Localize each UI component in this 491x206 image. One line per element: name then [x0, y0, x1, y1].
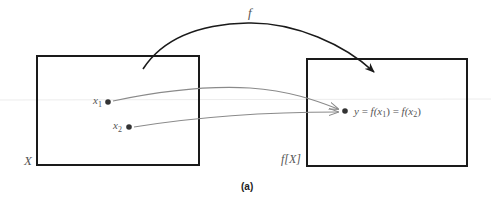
point-x1	[105, 99, 111, 105]
point-y	[342, 108, 348, 114]
point-x1-label: x1	[92, 94, 102, 109]
function-mapping-diagram: X f[X] f x1 x2 y = f(x1) = f(x2) (a)	[0, 0, 491, 206]
domain-set-label: X	[23, 153, 33, 168]
mapping-arrow-x1	[113, 87, 338, 109]
domain-set-box	[37, 56, 199, 165]
equation-label: y = f(x1) = f(x2)	[353, 105, 421, 119]
point-x2-label: x2	[112, 119, 122, 134]
figure-caption: (a)	[241, 181, 253, 192]
image-set-label: f[X]	[281, 152, 301, 166]
function-label: f	[248, 5, 254, 20]
function-arrow	[143, 23, 374, 72]
scan-line-artifact	[0, 99, 491, 100]
point-x2	[126, 124, 132, 130]
